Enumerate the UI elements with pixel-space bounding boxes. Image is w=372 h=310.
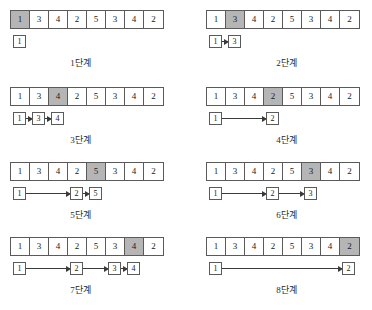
chain-node: 3 xyxy=(228,35,241,48)
array-cell: 1 xyxy=(207,88,226,105)
array-cell: 3 xyxy=(30,238,49,255)
array-cell: 1 xyxy=(11,88,30,105)
step-caption: 5단계 xyxy=(0,208,174,221)
chain-node: 2 xyxy=(266,187,279,200)
array-cell: 5 xyxy=(283,11,302,28)
array-cell: 3 xyxy=(30,88,49,105)
array-row: 13425342 xyxy=(10,162,164,181)
array-cell: 2 xyxy=(340,11,359,28)
array-cell: 2 xyxy=(264,238,283,255)
step-caption: 4단계 xyxy=(194,133,372,146)
step-panel-2: 13425342132단계 xyxy=(186,2,372,79)
chain-arrow xyxy=(26,268,70,269)
chain-node: 2 xyxy=(342,262,355,275)
array-cell-highlighted: 2 xyxy=(264,88,283,105)
step-caption: 1단계 xyxy=(0,56,174,69)
array-cell: 2 xyxy=(144,163,163,180)
step-panel-5: 134253421255단계 xyxy=(0,154,186,231)
array-cell: 4 xyxy=(321,163,340,180)
chain-arrow xyxy=(222,118,266,119)
array-cell: 4 xyxy=(49,163,68,180)
array-cell-highlighted: 5 xyxy=(87,163,106,180)
array-cell: 4 xyxy=(125,11,144,28)
array-cell: 5 xyxy=(87,88,106,105)
array-cell: 4 xyxy=(245,238,264,255)
chain-node: 1 xyxy=(209,262,222,275)
array-row: 13425342 xyxy=(206,87,360,106)
array-cell: 3 xyxy=(30,11,49,28)
array-cell: 2 xyxy=(144,88,163,105)
step-caption: 3단계 xyxy=(0,133,174,146)
step-panel-1: 1342534211단계 xyxy=(0,2,186,79)
array-cell: 2 xyxy=(144,238,163,255)
chain-arrow xyxy=(279,193,304,194)
array-cell: 2 xyxy=(68,163,87,180)
array-cell: 1 xyxy=(11,163,30,180)
step-caption: 8단계 xyxy=(194,283,372,296)
array-cell: 4 xyxy=(321,238,340,255)
step-caption: 6단계 xyxy=(194,208,372,221)
chain-node: 1 xyxy=(13,112,26,125)
chain-arrow xyxy=(26,193,70,194)
array-cell: 3 xyxy=(302,88,321,105)
chain-node: 1 xyxy=(209,35,222,48)
array-row: 13425342 xyxy=(206,237,360,256)
array-cell: 3 xyxy=(302,238,321,255)
array-cell: 4 xyxy=(49,11,68,28)
chain-node: 1 xyxy=(13,262,26,275)
array-cell: 4 xyxy=(125,88,144,105)
chain-node: 1 xyxy=(13,187,26,200)
array-cell: 4 xyxy=(245,163,264,180)
array-cell-highlighted: 3 xyxy=(302,163,321,180)
array-cell: 2 xyxy=(340,88,359,105)
array-cell: 4 xyxy=(245,11,264,28)
chain-node: 2 xyxy=(70,262,83,275)
array-cell: 2 xyxy=(68,11,87,28)
array-cell: 1 xyxy=(207,163,226,180)
array-cell: 3 xyxy=(106,88,125,105)
array-cell: 5 xyxy=(87,238,106,255)
array-cell: 2 xyxy=(144,11,163,28)
step-panel-4: 13425342124단계 xyxy=(186,79,372,156)
array-cell: 5 xyxy=(87,11,106,28)
array-cell: 1 xyxy=(207,238,226,255)
array-cell: 4 xyxy=(49,238,68,255)
array-cell: 5 xyxy=(283,238,302,255)
steps-figure: 1342534211단계13425342132단계134253421343단계1… xyxy=(0,0,372,310)
array-cell: 3 xyxy=(30,163,49,180)
array-cell: 2 xyxy=(68,88,87,105)
array-cell: 3 xyxy=(106,238,125,255)
array-cell: 5 xyxy=(283,163,302,180)
chain-node: 2 xyxy=(266,112,279,125)
step-caption: 7단계 xyxy=(0,283,174,296)
chain-node: 4 xyxy=(127,262,140,275)
array-cell: 3 xyxy=(226,238,245,255)
array-cell: 5 xyxy=(283,88,302,105)
array-cell: 2 xyxy=(264,163,283,180)
array-row: 13425342 xyxy=(10,237,164,256)
chain-node: 1 xyxy=(209,187,222,200)
array-cell-highlighted: 4 xyxy=(49,88,68,105)
chain-node: 1 xyxy=(209,112,222,125)
array-cell: 3 xyxy=(226,88,245,105)
step-panel-3: 134253421343단계 xyxy=(0,79,186,156)
array-cell-highlighted: 4 xyxy=(125,238,144,255)
array-cell: 2 xyxy=(264,11,283,28)
array-cell-highlighted: 3 xyxy=(226,11,245,28)
chain-node: 4 xyxy=(51,112,64,125)
chain-node: 3 xyxy=(32,112,45,125)
array-cell: 3 xyxy=(302,11,321,28)
array-cell: 3 xyxy=(226,163,245,180)
chain-node: 5 xyxy=(89,187,102,200)
step-caption: 2단계 xyxy=(194,56,372,69)
array-cell: 3 xyxy=(106,11,125,28)
array-cell: 1 xyxy=(11,238,30,255)
step-panel-6: 134253421236단계 xyxy=(186,154,372,231)
chain-node: 1 xyxy=(13,35,26,48)
chain-arrow xyxy=(83,268,108,269)
chain-node: 3 xyxy=(108,262,121,275)
array-cell-highlighted: 1 xyxy=(11,11,30,28)
array-row: 13425342 xyxy=(206,162,360,181)
array-cell: 2 xyxy=(68,238,87,255)
array-cell: 4 xyxy=(125,163,144,180)
